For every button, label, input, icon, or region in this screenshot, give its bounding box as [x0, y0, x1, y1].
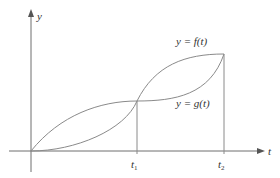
t-axis-label: t	[268, 145, 272, 157]
y-axis: y	[28, 9, 42, 172]
t-axis: t	[9, 145, 272, 157]
t1-tick-label: t1	[131, 158, 138, 172]
y-axis-arrow-icon	[28, 9, 34, 17]
t2-tick-label: t2	[218, 158, 225, 172]
y-axis-label: y	[36, 10, 42, 22]
curve-f-label: y = f(t)	[175, 35, 208, 48]
diagram-canvas: y t t1 t2 y = f(t) y = g(t)	[0, 0, 280, 178]
diagram-figure: y t t1 t2 y = f(t) y = g(t)	[0, 0, 280, 178]
t-axis-arrow-icon	[257, 148, 265, 154]
curve-g-label: y = g(t)	[175, 97, 210, 110]
